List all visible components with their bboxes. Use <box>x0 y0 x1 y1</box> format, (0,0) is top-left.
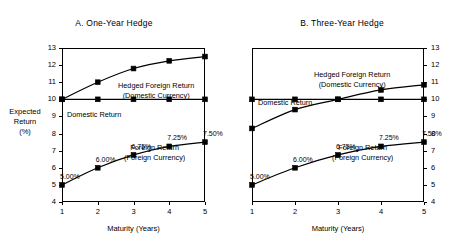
y-axis-tick-label: 7 <box>38 147 56 155</box>
x-axis-tick-label: 4 <box>160 208 178 216</box>
series-label-hedged-foreign-return: Hedged Foreign Return(Domestic Currency) <box>314 70 390 89</box>
series-label-line: Foreign Return <box>124 143 185 153</box>
y-axis-tick-mark <box>59 185 62 186</box>
y-axis-tick-label: 4 <box>38 198 56 206</box>
data-point-marker <box>95 165 100 170</box>
x-axis-tick-mark <box>169 202 170 205</box>
y-axis-tick-label: 7 <box>431 147 449 155</box>
x-axis-tick-label: 3 <box>329 208 347 216</box>
data-point-label: 5.00% <box>250 173 270 181</box>
y-axis-tick-mark <box>424 65 427 66</box>
data-point-marker <box>422 140 427 145</box>
series-label-line: (Domestic Currency) <box>118 91 194 101</box>
y-axis-tick-mark <box>59 65 62 66</box>
y-axis-tick-mark <box>59 134 62 135</box>
x-axis-tick-label: 5 <box>196 208 214 216</box>
data-point-marker <box>250 182 255 187</box>
chart-panel-a: A. One-Year Hedge 4567891011121312345 5.… <box>0 0 228 250</box>
series-label-hedged-foreign-return: Hedged Foreign Return(Domestic Currency) <box>118 81 194 100</box>
x-axis-tick-mark <box>338 202 339 205</box>
y-axis-tick-label: 11 <box>38 78 56 86</box>
data-point-label: 6.00% <box>96 156 116 164</box>
x-axis-tick-label: 3 <box>125 208 143 216</box>
data-point-marker <box>167 58 172 63</box>
x-axis-tick-mark <box>424 202 425 205</box>
data-point-label: 7.25% <box>379 134 399 142</box>
data-point-marker <box>250 126 255 131</box>
series-label-line: (Foreign Currency) <box>124 153 185 163</box>
y-axis-tick-label: 6 <box>38 164 56 172</box>
series-label-domestic-return: Domestic Return <box>67 110 121 120</box>
x-axis-tick-label: 2 <box>286 208 304 216</box>
y-axis-tick-label: 10 <box>431 95 449 103</box>
x-axis-tick-mark <box>252 202 253 205</box>
series-label-line: (Domestic Currency) <box>314 80 390 90</box>
series-label-line: Hedged Foreign Return <box>118 81 194 91</box>
y-axis-tick-label: 5 <box>431 181 449 189</box>
series-label-foreign-return: Foreign Return(Foreign Currency) <box>124 143 185 162</box>
y-axis-tick-label: 5 <box>38 181 56 189</box>
x-axis-tick-label: 2 <box>89 208 107 216</box>
x-axis-tick-label: 1 <box>53 208 71 216</box>
series-label-line: Domestic Return <box>67 110 121 120</box>
y-axis-tick-mark <box>59 116 62 117</box>
y-axis-tick-mark <box>424 82 427 83</box>
y-axis-tick-mark <box>424 116 427 117</box>
y-axis-tick-label: 13 <box>431 44 449 52</box>
panel-a-x-axis-label: Maturity (Years) <box>62 224 205 233</box>
y-axis-tick-label: 9 <box>431 112 449 120</box>
data-point-marker <box>203 97 208 102</box>
data-point-label: 7.25% <box>167 134 187 142</box>
y-axis-tick-mark <box>424 168 427 169</box>
series-label-line: Domestic Return <box>258 98 312 108</box>
x-axis-tick-mark <box>62 202 63 205</box>
series-label-foreign-return: Foreign Return(Foreign Currency) <box>332 143 393 162</box>
y-axis-tick-mark <box>59 82 62 83</box>
y-axis-tick-mark <box>59 99 62 100</box>
x-axis-tick-mark <box>381 202 382 205</box>
chart-panel-b: B. Three-Year Hedge 4567891011121312345 … <box>228 0 456 250</box>
y-axis-tick-mark <box>424 185 427 186</box>
data-point-marker <box>203 140 208 145</box>
series-label-line: Hedged Foreign Return <box>314 70 390 80</box>
data-point-label: 5.00% <box>60 173 80 181</box>
y-axis-tick-mark <box>424 48 427 49</box>
y-axis-tick-mark <box>59 48 62 49</box>
data-point-label: 7.50% <box>422 130 442 138</box>
data-point-marker <box>293 165 298 170</box>
x-axis-tick-label: 1 <box>243 208 261 216</box>
y-axis-tick-label: 6 <box>431 164 449 172</box>
x-axis-tick-mark <box>205 202 206 205</box>
y-axis-tick-label: 4 <box>431 198 449 206</box>
data-point-marker <box>131 66 136 71</box>
y-axis-tick-label: 11 <box>431 78 449 86</box>
panel-a-y-axis-label: Expected Return (%) <box>2 107 48 137</box>
x-axis-tick-mark <box>295 202 296 205</box>
y-axis-label-line-1: Expected <box>2 107 48 117</box>
data-point-marker <box>250 97 255 102</box>
data-point-marker <box>379 97 384 102</box>
data-point-marker <box>95 80 100 85</box>
x-axis-tick-label: 4 <box>372 208 390 216</box>
y-axis-tick-label: 13 <box>38 44 56 52</box>
y-axis-tick-mark <box>424 151 427 152</box>
panel-b-x-axis-label: Maturity (Years) <box>252 224 424 233</box>
y-axis-tick-mark <box>59 151 62 152</box>
data-point-marker <box>336 97 341 102</box>
data-point-label: 7.50% <box>203 130 223 138</box>
series-label-line: Foreign Return <box>332 143 393 153</box>
data-point-marker <box>95 97 100 102</box>
figure-container: A. One-Year Hedge 4567891011121312345 5.… <box>0 0 456 250</box>
x-axis-tick-label: 5 <box>415 208 433 216</box>
y-axis-tick-label: 12 <box>431 61 449 69</box>
series-label-domestic-return: Domestic Return <box>258 98 312 108</box>
y-axis-tick-mark <box>424 99 427 100</box>
x-axis-tick-mark <box>134 202 135 205</box>
data-point-label: 6.00% <box>293 156 313 164</box>
x-axis-tick-mark <box>98 202 99 205</box>
data-point-marker <box>293 107 298 112</box>
y-axis-tick-label: 12 <box>38 61 56 69</box>
series-label-line: (Foreign Currency) <box>332 153 393 163</box>
y-axis-tick-label: 10 <box>38 95 56 103</box>
y-axis-label-line-2: Return <box>2 117 48 127</box>
